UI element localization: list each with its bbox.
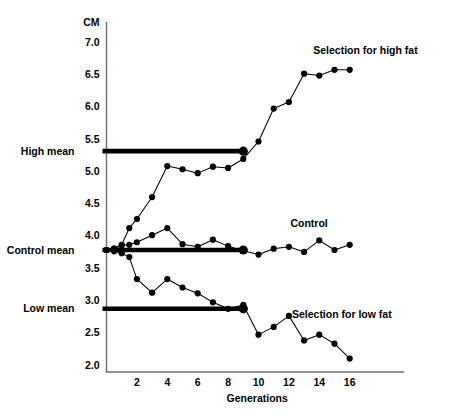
y-tick-label-5.5: 5.5 (85, 133, 100, 145)
series-annotation-0: Selection for high fat (313, 44, 418, 56)
series-point-2-18 (347, 355, 353, 361)
series-point-1-18 (347, 242, 353, 248)
series-point-0-13 (271, 105, 277, 111)
series-point-2-15 (301, 337, 307, 343)
series-point-1-3 (126, 242, 132, 248)
series-point-0-17 (331, 67, 337, 73)
series-point-1-13 (271, 246, 277, 252)
series-point-1-11 (240, 248, 246, 254)
x-tick-label-4: 4 (164, 376, 170, 388)
series-point-2-10 (225, 306, 231, 312)
series-point-1-9 (210, 237, 216, 243)
series-point-2-16 (316, 332, 322, 338)
y-tick-label-4.0: 4.0 (85, 229, 100, 241)
reference-lines-group (103, 147, 248, 314)
series-point-0-10 (225, 165, 231, 171)
y-tick-label-3.0: 3.0 (85, 294, 100, 306)
y-tick-label-4.5: 4.5 (85, 197, 100, 209)
x-tick-label-12: 12 (283, 376, 295, 388)
y-tick-label-3.5: 3.5 (85, 262, 100, 274)
x-tick-label-16: 16 (344, 376, 356, 388)
series-point-1-16 (316, 237, 322, 243)
series-point-2-0 (103, 247, 109, 253)
series-point-2-9 (210, 299, 216, 305)
series-point-0-6 (164, 163, 170, 169)
series-point-2-11 (240, 302, 246, 308)
series-point-1-12 (255, 251, 261, 257)
reference-line-label-1: Control mean (7, 244, 75, 256)
series-point-2-13 (271, 324, 277, 330)
x-tick-label-14: 14 (313, 376, 325, 388)
series-point-2-8 (195, 290, 201, 296)
series-point-2-4 (134, 276, 140, 282)
series-point-0-14 (286, 99, 292, 105)
series-point-1-15 (301, 249, 307, 255)
series-point-0-7 (179, 166, 185, 172)
series-annotation-1: Control (290, 217, 327, 229)
series-point-0-5 (149, 194, 155, 200)
series-point-2-17 (331, 341, 337, 347)
series-point-2-7 (179, 284, 185, 290)
series-point-0-18 (347, 67, 353, 73)
series-point-0-11 (240, 156, 246, 162)
reference-line-end-marker-0 (239, 147, 248, 156)
y-tick-label-6.0: 6.0 (85, 100, 100, 112)
series-point-0-8 (195, 170, 201, 176)
series-point-0-4 (134, 216, 140, 222)
x-axis-title: Generations (227, 392, 288, 404)
series-line-2 (107, 250, 350, 359)
series-point-2-12 (255, 332, 261, 338)
series-point-1-6 (164, 225, 170, 231)
series-point-1-2 (119, 242, 125, 248)
series-annotation-2: Selection for low fat (292, 308, 392, 320)
series-point-1-17 (331, 247, 337, 253)
series-point-0-9 (210, 164, 216, 170)
series-point-1-5 (149, 232, 155, 238)
y-tick-label-6.5: 6.5 (85, 68, 100, 80)
series-point-0-12 (255, 138, 261, 144)
series-point-2-1 (111, 248, 117, 254)
x-tick-label-2: 2 (134, 376, 140, 388)
y-tick-label-2.0: 2.0 (85, 359, 100, 371)
series-point-2-2 (119, 250, 125, 256)
x-tick-label-10: 10 (253, 376, 265, 388)
series-point-1-8 (195, 244, 201, 250)
x-tick-label-8: 8 (225, 376, 231, 388)
series-point-2-6 (164, 276, 170, 282)
x-tick-label-6: 6 (195, 376, 201, 388)
series-point-1-4 (134, 239, 140, 245)
series-point-2-3 (126, 254, 132, 260)
line-chart: 2.02.53.03.54.04.55.05.56.06.57.0CM24681… (0, 0, 454, 418)
series-point-1-7 (179, 241, 185, 247)
series-point-0-15 (301, 71, 307, 77)
series-point-0-16 (316, 72, 322, 78)
series-point-1-14 (286, 244, 292, 250)
series-point-2-5 (149, 290, 155, 296)
series-point-0-3 (126, 225, 132, 231)
chart-labels-group: 2.02.53.03.54.04.55.05.56.06.57.0CM24681… (7, 16, 418, 404)
chart-figure: 2.02.53.03.54.04.55.05.56.06.57.0CM24681… (0, 0, 454, 418)
series-point-1-10 (225, 243, 231, 249)
y-tick-label-2.5: 2.5 (85, 326, 100, 338)
reference-line-label-0: High mean (21, 145, 75, 157)
reference-line-label-2: Low mean (23, 302, 74, 314)
y-tick-label-5.0: 5.0 (85, 165, 100, 177)
y-tick-label-7.0: 7.0 (85, 36, 100, 48)
y-axis-unit-label: CM (83, 16, 100, 28)
